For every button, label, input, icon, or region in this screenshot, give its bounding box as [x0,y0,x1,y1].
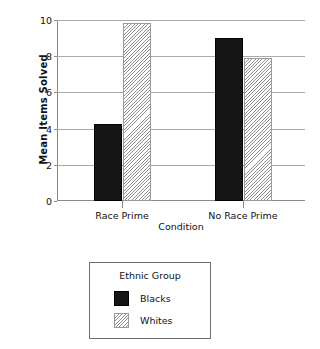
legend-title: Ethnic Group [90,270,210,281]
y-tick-mark [54,92,57,93]
gridline [57,20,305,21]
legend-item[interactable]: Blacks [114,291,171,306]
legend-swatch-blacks [114,291,129,306]
y-tick-label: 6 [46,87,52,98]
plot-area: 0246810 Race PrimeNo Race Prime [57,20,305,201]
y-axis-line [57,20,58,201]
x-axis-title: Condition [57,221,305,232]
bar [94,124,122,201]
legend-label: Whites [140,315,173,326]
bar [244,58,272,201]
y-tick-label: 0 [46,196,52,207]
y-tick-label: 8 [46,51,52,62]
x-tick-label: No Race Prime [208,210,277,221]
bar [215,38,243,201]
y-tick-mark [54,201,57,202]
x-tick-mark [122,201,123,208]
bar [123,23,151,201]
legend-item[interactable]: Whites [114,313,173,328]
legend-label: Blacks [140,293,171,304]
chart-figure: Mean Items Solved 0246810 Race PrimeNo R… [0,0,320,349]
y-tick-mark [54,56,57,57]
y-tick-label: 2 [46,159,52,170]
legend-swatch-whites [114,313,129,328]
y-tick-mark [54,165,57,166]
x-tick-label: Race Prime [95,210,149,221]
y-tick-label: 4 [46,123,52,134]
legend: Ethnic Group BlacksWhites [89,262,211,339]
y-tick-mark [54,20,57,21]
y-tick-mark [54,129,57,130]
y-tick-label: 10 [40,15,52,26]
x-tick-mark [243,201,244,208]
